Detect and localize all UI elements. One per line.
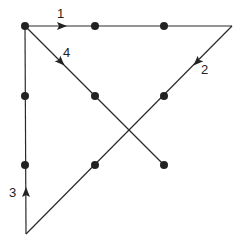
dot-r3-c2 xyxy=(91,161,99,169)
label-line-3: 3 xyxy=(9,185,16,200)
nine-dot-puzzle-diagram: 1 2 3 4 xyxy=(0,0,241,250)
dot-r3-c1 xyxy=(21,161,29,169)
label-line-4: 4 xyxy=(63,45,70,60)
dot-r1-c2 xyxy=(91,22,99,30)
dot-r3-c3 xyxy=(160,161,168,169)
dot-r1-c1 xyxy=(21,22,29,30)
dot-r2-c1 xyxy=(21,92,29,100)
dot-r1-c3 xyxy=(160,22,168,30)
label-line-1: 1 xyxy=(57,6,64,21)
label-line-2: 2 xyxy=(201,62,208,77)
line-3 xyxy=(25,26,26,234)
dot-r2-c3 xyxy=(160,92,168,100)
dot-r2-c2 xyxy=(91,92,99,100)
